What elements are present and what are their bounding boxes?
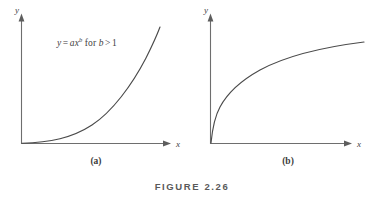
figure-caption: FIGURE 2.26 — [0, 181, 384, 192]
figure-panels: y x y=axb for b>1 y x — [0, 0, 384, 178]
equation-label-a: y=axb for b>1 — [57, 38, 117, 48]
sub-caption-a: (a) — [0, 156, 192, 166]
eq-a-equals: = — [61, 38, 69, 48]
y-axis-label-b: y — [203, 5, 208, 15]
sub-caption-b: (b) — [192, 156, 384, 166]
x-axis-label-b: x — [356, 139, 361, 149]
eq-a-for: for — [85, 38, 96, 48]
panel-a: y x y=axb for b>1 — [0, 0, 192, 178]
curve-concave-b — [211, 42, 364, 143]
x-axis-arrowhead-a — [163, 141, 171, 147]
plot-b: y x — [192, 0, 384, 178]
eq-a-relation: > — [104, 38, 112, 48]
figure-2-26: y x y=axb for b>1 y x — [0, 0, 384, 203]
eq-a-exponent: b — [79, 36, 82, 43]
panel-b: y x y=axb for 0<b<1 — [192, 0, 384, 178]
y-axis-arrowhead-a — [19, 14, 25, 22]
eq-a-b: b — [99, 38, 104, 48]
eq-a-bound: 1 — [112, 38, 117, 48]
x-axis-arrowhead-b — [344, 141, 352, 147]
y-axis-label-a: y — [14, 5, 19, 15]
plot-a: y x — [0, 0, 192, 178]
y-axis-arrowhead-b — [208, 14, 214, 22]
x-axis-label-a: x — [175, 139, 180, 149]
